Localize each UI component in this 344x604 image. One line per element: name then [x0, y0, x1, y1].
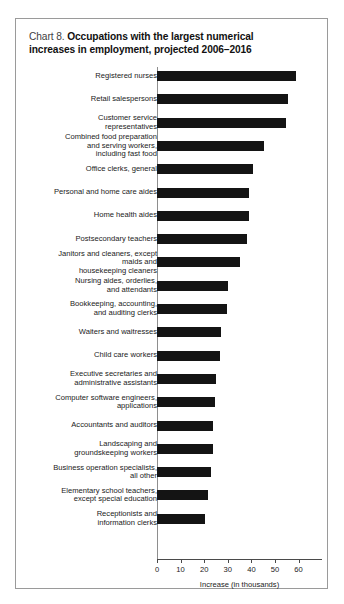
- bar: [157, 490, 208, 500]
- bar-category-label: Postsecondary teachers: [27, 235, 157, 244]
- x-axis-tick-label: 30: [216, 565, 240, 574]
- bar: [157, 211, 249, 221]
- x-axis-tick: [299, 559, 300, 563]
- bar-row: Office clerks, general: [16, 164, 329, 187]
- chart-title-line-1: Chart 8. Occupations with the largest nu…: [29, 30, 315, 43]
- bar: [157, 467, 211, 477]
- bar: [157, 118, 286, 128]
- bar: [157, 304, 227, 314]
- chart-title-line-2: increases in employment, projected 2006–…: [29, 43, 315, 56]
- bar-row: Combined food preparation and serving wo…: [16, 141, 329, 164]
- x-axis-title: Increase (in thousands): [157, 580, 322, 589]
- bar-category-label: Waiters and waitresses: [27, 328, 157, 337]
- bar-category-label: Customer service representatives: [27, 114, 157, 131]
- x-axis-tick: [157, 559, 158, 563]
- x-axis-tick-label: 10: [169, 565, 193, 574]
- plot-area: Registered nursesRetail salespersonsCust…: [16, 67, 329, 567]
- bar: [157, 444, 213, 454]
- screenshot-page: Chart 8. Occupations with the largest nu…: [0, 0, 344, 604]
- bar-category-label: Landscaping and groundskeeping workers: [27, 440, 157, 457]
- bar-row: Home health aides: [16, 211, 329, 234]
- bar: [157, 374, 216, 384]
- bar-category-label: Computer software engineers, application…: [27, 394, 157, 411]
- bar: [157, 281, 228, 291]
- bar-category-label: Bookkeeping, accounting, and auditing cl…: [27, 300, 157, 317]
- x-axis-tick: [251, 559, 252, 563]
- x-axis-tick-label: 0: [145, 565, 169, 574]
- bar: [157, 257, 240, 267]
- bar: [157, 327, 221, 337]
- x-axis-tick: [204, 559, 205, 563]
- bar: [157, 94, 288, 104]
- x-axis-tick-label: 60: [287, 565, 311, 574]
- x-axis-tick-label: 20: [192, 565, 216, 574]
- bar-category-label: Accountants and auditors: [27, 421, 157, 430]
- bar-category-label: Elementary school teachers, except speci…: [27, 487, 157, 504]
- bar: [157, 421, 213, 431]
- bar-category-label: Janitors and cleaners, except maids and …: [27, 250, 157, 276]
- bar-category-label: Home health aides: [27, 211, 157, 220]
- bar-row: Bookkeeping, accounting, and auditing cl…: [16, 304, 329, 327]
- x-axis-line: [157, 559, 322, 560]
- bar: [157, 234, 247, 244]
- bar: [157, 351, 220, 361]
- bar-category-label: Executive secretaries and administrative…: [27, 370, 157, 387]
- bar: [157, 71, 296, 81]
- chart-title-text-2: increases in employment, projected 2006–…: [29, 44, 252, 55]
- bar-row: Receptionists and information clerks: [16, 514, 329, 537]
- bar-row: Computer software engineers, application…: [16, 397, 329, 420]
- bar-category-label: Receptionists and information clerks: [27, 510, 157, 527]
- bar-category-label: Child care workers: [27, 351, 157, 360]
- chart-title-text-1: Occupations with the largest numerical: [67, 31, 253, 42]
- chart-number-label: Chart 8.: [29, 31, 64, 42]
- bar-category-label: Combined food preparation and serving wo…: [27, 133, 157, 159]
- chart-frame: Chart 8. Occupations with the largest nu…: [15, 18, 328, 589]
- bar: [157, 397, 215, 407]
- bar-category-label: Registered nurses: [27, 72, 157, 81]
- chart-title: Chart 8. Occupations with the largest nu…: [29, 30, 315, 56]
- x-axis-tick-label: 40: [239, 565, 263, 574]
- bar-category-label: Retail salespersons: [27, 95, 157, 104]
- x-axis-tick: [275, 559, 276, 563]
- bar-row: Personal and home care aides: [16, 188, 329, 211]
- bar-row: Registered nurses: [16, 71, 329, 94]
- bar: [157, 141, 264, 151]
- x-axis-tick-label: 50: [263, 565, 287, 574]
- bar: [157, 164, 253, 174]
- bar-category-label: Business operation specialists, all othe…: [27, 464, 157, 481]
- x-axis-tick: [228, 559, 229, 563]
- x-axis-tick: [181, 559, 182, 563]
- bar: [157, 514, 205, 524]
- bar-category-label: Office clerks, general: [27, 165, 157, 174]
- bar-category-label: Nursing aides, orderlies, and attendants: [27, 277, 157, 294]
- bar-row: Waiters and waitresses: [16, 327, 329, 350]
- bar-category-label: Personal and home care aides: [27, 188, 157, 197]
- bar: [157, 188, 249, 198]
